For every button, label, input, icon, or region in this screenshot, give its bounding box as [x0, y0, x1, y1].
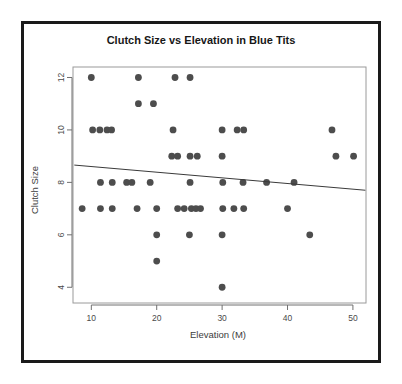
x-axis-tick-label: 10: [87, 313, 97, 323]
y-axis-tick-label: 4: [56, 285, 66, 290]
data-point: [284, 205, 291, 212]
y-axis-tick-label: 12: [56, 72, 66, 82]
data-point: [240, 127, 247, 134]
data-point: [187, 153, 194, 160]
x-axis-tick-label: 40: [283, 313, 293, 323]
data-point: [147, 179, 154, 186]
data-point: [109, 205, 116, 212]
data-point: [186, 231, 193, 238]
data-point: [97, 205, 104, 212]
regression-line: [74, 165, 365, 190]
scatter-chart: Clutch Size vs Elevation in Blue Tits 46…: [0, 0, 402, 384]
data-point: [153, 258, 160, 265]
plot-area-border: [73, 67, 366, 303]
data-point: [240, 205, 247, 212]
data-point: [194, 153, 201, 160]
y-axis-tick-label: 6: [56, 232, 66, 237]
data-point: [108, 127, 115, 134]
data-point: [219, 231, 226, 238]
data-point: [150, 100, 157, 107]
data-point: [89, 127, 96, 134]
data-point: [109, 179, 116, 186]
data-point: [197, 205, 204, 212]
data-point: [96, 127, 103, 134]
data-point: [219, 153, 226, 160]
x-axis-tick-label: 20: [152, 313, 162, 323]
data-point: [134, 205, 141, 212]
x-axis-tick-label: 50: [348, 313, 358, 323]
x-axis-tick-label: 30: [217, 313, 227, 323]
y-axis-title: Clutch Size: [29, 166, 40, 214]
regression-line-layer: [74, 165, 365, 190]
data-point: [230, 205, 237, 212]
data-point: [306, 231, 313, 238]
plot-panel: [73, 67, 366, 303]
data-point: [187, 74, 194, 81]
data-point: [219, 284, 226, 291]
data-point: [174, 153, 181, 160]
x-axis: 1020304050: [87, 305, 358, 323]
data-point: [79, 205, 86, 212]
data-point: [97, 179, 104, 186]
data-point: [153, 231, 160, 238]
data-point: [234, 127, 241, 134]
y-axis-tick-label: 10: [56, 125, 66, 135]
data-point: [329, 127, 336, 134]
data-point: [168, 153, 175, 160]
data-point: [135, 100, 142, 107]
data-point: [128, 179, 135, 186]
data-point: [170, 127, 177, 134]
data-point: [219, 127, 226, 134]
data-point: [88, 74, 95, 81]
data-point: [153, 205, 160, 212]
data-point: [181, 205, 188, 212]
data-point: [172, 74, 179, 81]
x-axis-title: Elevation (M): [190, 329, 246, 340]
data-point: [187, 179, 194, 186]
data-point: [350, 153, 357, 160]
data-point: [135, 74, 142, 81]
y-axis-tick-label: 8: [56, 180, 66, 185]
data-point: [219, 205, 226, 212]
chart-title: Clutch Size vs Elevation in Blue Tits: [107, 34, 296, 46]
data-point: [219, 179, 226, 186]
data-point: [333, 153, 340, 160]
data-points-layer: [79, 74, 357, 291]
y-axis: 4681012: [56, 72, 72, 289]
data-point: [174, 205, 181, 212]
